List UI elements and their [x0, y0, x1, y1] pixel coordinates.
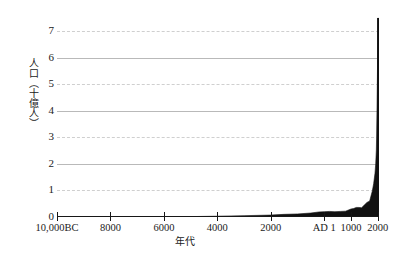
x-tick-label: 2000 [260, 222, 281, 234]
area-fill [57, 18, 378, 217]
x-tick-mark [378, 212, 379, 221]
x-tick-mark [324, 212, 325, 221]
x-axis-title: 年代 [175, 236, 195, 247]
x-tick-mark [271, 212, 272, 221]
y-tick-label: 0 [36, 211, 54, 222]
y-tick-label: 4 [36, 105, 54, 116]
y-tick-label: 5 [36, 78, 54, 89]
y-axis-title: 人口（十億人） [18, 58, 38, 128]
y-tick-label: 3 [36, 131, 54, 142]
plot-area [57, 10, 379, 217]
x-axis-title-wrap: 年代 [0, 236, 402, 248]
y-tick-label: 6 [36, 52, 54, 63]
y-tick-label: 7 [36, 25, 54, 36]
x-tick-mark [217, 212, 218, 221]
x-tick-mark [110, 212, 111, 221]
x-tick-label: AD 1 [313, 222, 336, 234]
peak-spike [377, 18, 379, 217]
x-tick-mark [164, 212, 165, 221]
x-tick-mark [351, 212, 352, 221]
population-area-series [57, 10, 379, 217]
x-tick-label: 10,000BC [36, 222, 79, 234]
x-tick-label: 2000 [367, 222, 388, 234]
x-tick-label: 4000 [207, 222, 228, 234]
y-tick-label: 1 [36, 184, 54, 195]
x-tick-label: 8000 [100, 222, 121, 234]
x-tick-label: 1000 [340, 222, 361, 234]
x-tick-mark [57, 212, 58, 221]
y-tick-label: 2 [36, 158, 54, 169]
population-chart: 人口（十億人） 76543210 10,000BC800060004000200… [0, 0, 402, 264]
x-tick-label: 6000 [153, 222, 174, 234]
